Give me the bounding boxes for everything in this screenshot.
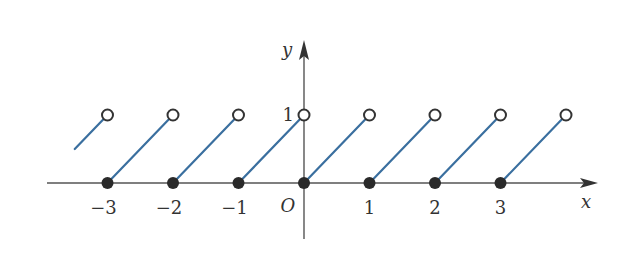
- open-point: [102, 110, 113, 121]
- segment-5: [370, 115, 436, 183]
- x-tick-label: 3: [495, 197, 506, 218]
- segment-4: [304, 115, 370, 183]
- x-tick-label: −1: [221, 197, 248, 218]
- open-point: [168, 110, 179, 121]
- open-point: [561, 110, 572, 121]
- x-tick-label: −3: [90, 197, 117, 218]
- closed-point: [429, 177, 441, 189]
- segment-6: [435, 115, 501, 183]
- axes: [47, 40, 598, 239]
- x-tick-label: 2: [429, 197, 440, 218]
- segment-1: [108, 115, 174, 183]
- segment-2: [173, 115, 239, 183]
- open-point: [364, 110, 375, 121]
- closed-point: [364, 177, 376, 189]
- open-point: [299, 110, 310, 121]
- x-tick-label: −2: [156, 197, 183, 218]
- sawtooth-graph: −3−2−11231Oxy: [0, 0, 633, 278]
- closed-point: [233, 177, 245, 189]
- segment-3: [239, 115, 305, 183]
- open-point: [430, 110, 441, 121]
- axis-labels: −3−2−11231Oxy: [90, 39, 591, 218]
- open-point: [233, 110, 244, 121]
- y-axis-label: y: [281, 39, 293, 60]
- y-tick-label: 1: [283, 104, 294, 125]
- closed-point: [167, 177, 179, 189]
- segment-7: [501, 115, 567, 183]
- x-axis-label: x: [581, 191, 591, 212]
- closed-point: [495, 177, 507, 189]
- origin-label: O: [281, 195, 296, 216]
- closed-point: [102, 177, 114, 189]
- open-point: [495, 110, 506, 121]
- segment-0: [75, 115, 108, 149]
- closed-point: [298, 177, 310, 189]
- x-tick-label: 1: [364, 197, 375, 218]
- graph-segments: [75, 115, 566, 183]
